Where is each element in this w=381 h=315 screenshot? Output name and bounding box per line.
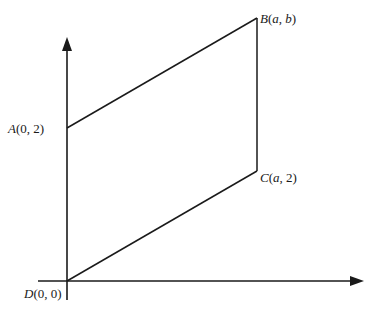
point-label-d: D(0, 0) [23,286,62,301]
point-label-a: A(0, 2) [7,121,44,136]
y-axis [62,37,72,300]
x-axis-arrow-icon [350,276,364,286]
y-axis-arrow-icon [62,37,72,51]
x-axis [38,276,364,286]
point-label-c: C(a, 2) [260,170,297,185]
point-label-b: B(a, b) [260,11,296,26]
edge-ab [67,18,257,128]
diagram-canvas: A(0, 2) B(a, b) C(a, 2) D(0, 0) [0,0,381,315]
edge-cd [67,171,257,281]
parallelogram-abcd [67,18,257,281]
